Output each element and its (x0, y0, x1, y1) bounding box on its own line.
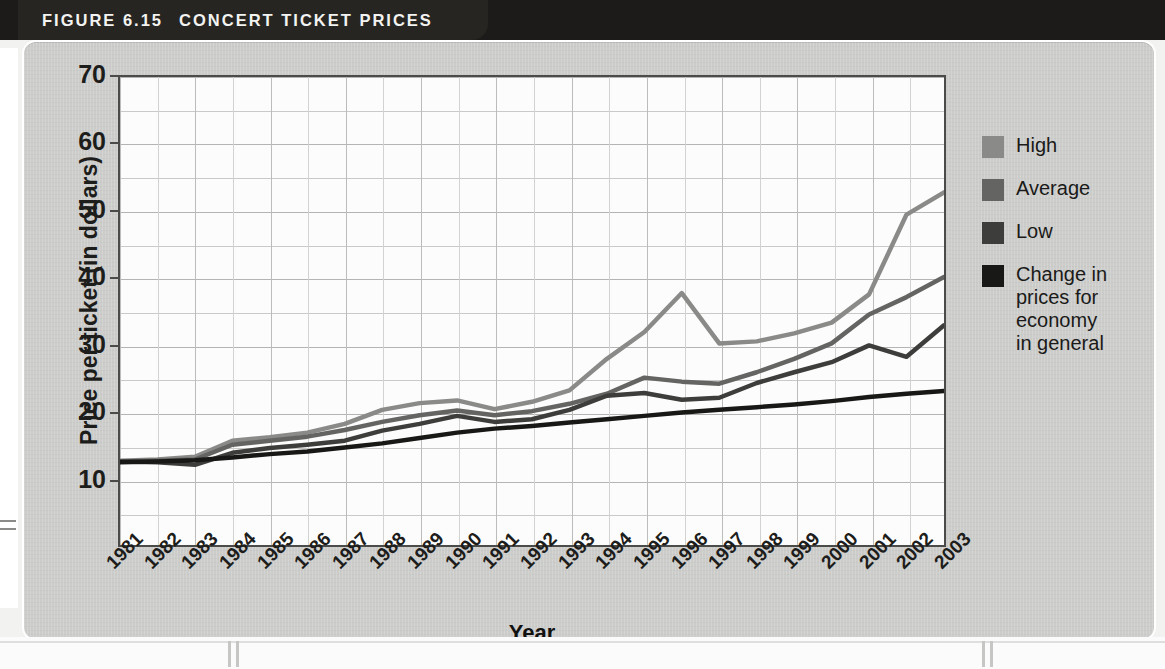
y-axis-tick-mark (110, 210, 119, 212)
legend-item-label: Average (1016, 177, 1090, 200)
legend-swatch-icon (982, 136, 1004, 158)
legend-item-label: High (1016, 134, 1057, 157)
legend-item[interactable]: Low (982, 220, 1152, 244)
legend-label-line: prices for (1016, 286, 1107, 309)
legend-item-label: Low (1016, 220, 1053, 243)
legend-label-line: Average (1016, 177, 1090, 200)
legend-label-line: Low (1016, 220, 1053, 243)
y-axis-tick-label: 50 (54, 197, 106, 222)
x-axis-tick-labels: 1981198219831984198519861987198819891990… (118, 550, 946, 630)
legend-item[interactable]: Change inprices foreconomyin general (982, 263, 1152, 355)
page-bottom-tick (990, 641, 993, 667)
legend-swatch-icon (982, 222, 1004, 244)
page-edge-rule-bottom (0, 528, 16, 530)
legend-label-line: economy (1016, 309, 1107, 332)
y-axis-tick-labels (34, 42, 112, 582)
y-axis-tick-label: 30 (54, 332, 106, 357)
figure-title-tab: FIGURE 6.15CONCERT TICKET PRICES (18, 0, 488, 40)
figure-page: FIGURE 6.15CONCERT TICKET PRICES Price p… (0, 0, 1165, 669)
figure-number: FIGURE 6.15 (42, 11, 163, 29)
legend-item[interactable]: High (982, 134, 1152, 158)
series-line (120, 277, 944, 462)
y-axis-tick-mark (110, 412, 119, 414)
y-axis-tick-mark (110, 277, 119, 279)
y-axis-tick-label: 60 (54, 129, 106, 154)
page-bottom-tick (228, 641, 231, 667)
legend-item-label: Change inprices foreconomyin general (1016, 263, 1107, 355)
chart-legend: HighAverageLowChange inprices foreconomy… (982, 134, 1152, 374)
series-lines (120, 77, 944, 547)
y-axis-tick-mark (110, 345, 119, 347)
y-axis-tick-label: 40 (54, 264, 106, 289)
y-axis-tick-mark (110, 480, 119, 482)
legend-label-line: High (1016, 134, 1057, 157)
page-bottom-tick (236, 641, 239, 667)
figure-title-text: CONCERT TICKET PRICES (179, 11, 433, 29)
y-axis-tick-label: 20 (54, 399, 106, 424)
page-edge-rule-top (0, 520, 16, 522)
y-axis-tick-label: 10 (54, 467, 106, 492)
y-axis-tick-mark (110, 75, 119, 77)
plot-area (118, 75, 946, 547)
legend-item[interactable]: Average (982, 177, 1152, 201)
figure-title: FIGURE 6.15CONCERT TICKET PRICES (18, 11, 433, 30)
page-left-gutter (0, 48, 18, 608)
figure-card: Price per ticket (in dollars) 1981198219… (22, 40, 1156, 641)
chart-area: Price per ticket (in dollars) 1981198219… (24, 42, 1154, 639)
page-bottom-tick (982, 641, 985, 667)
y-axis-tick-label: 70 (54, 62, 106, 87)
legend-label-line: Change in (1016, 263, 1107, 286)
legend-swatch-icon (982, 265, 1004, 287)
legend-swatch-icon (982, 179, 1004, 201)
legend-label-line: in general (1016, 332, 1107, 355)
y-axis-tick-mark (110, 142, 119, 144)
